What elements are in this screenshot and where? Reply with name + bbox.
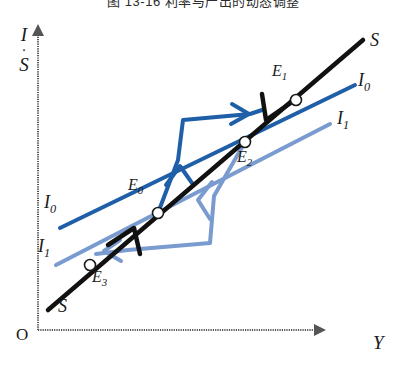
- curve-label-i0-right-sub: 0: [364, 80, 370, 94]
- point-E2[interactable]: [240, 137, 251, 148]
- point-label-E3: E3: [92, 268, 107, 288]
- point-label-E0-sub: 0: [138, 184, 143, 196]
- curve-label-i0-left: I0: [44, 192, 56, 217]
- x-axis-label: Y: [373, 332, 384, 354]
- curve-label-i0-right: I0: [358, 70, 370, 95]
- origin-label: O: [16, 325, 28, 345]
- point-label-E2-sub: 2: [247, 156, 252, 168]
- y-axis-label-s: S: [14, 56, 34, 74]
- point-label-E2-base: E: [237, 148, 247, 165]
- point-label-E3-base: E: [92, 268, 102, 285]
- point-label-E2: E2: [237, 148, 252, 168]
- point-label-E1: E1: [272, 62, 287, 82]
- y-axis-label: I · S: [14, 26, 34, 74]
- curve-investment-i0: [60, 85, 355, 228]
- point-label-E1-base: E: [272, 62, 282, 79]
- point-E1[interactable]: [291, 95, 302, 106]
- point-label-E3-sub: 3: [102, 276, 107, 288]
- point-label-E1-sub: 1: [282, 70, 287, 82]
- curve-label-s-top: S: [370, 30, 379, 51]
- curve-label-i1-right-sub: 1: [343, 118, 349, 132]
- curve-label-i0-left-sub: 0: [50, 202, 56, 216]
- curve-label-s-bottom: S: [58, 296, 67, 317]
- curve-label-i1-right: I1: [337, 108, 349, 133]
- curve-label-i1-left: I1: [38, 236, 50, 261]
- curve-label-i1-left-sub: 1: [44, 246, 50, 260]
- point-E0[interactable]: [153, 208, 164, 219]
- point-label-E0-base: E: [128, 176, 138, 193]
- point-label-E0: E0: [128, 176, 143, 196]
- figure-root: 图 13-16 利率与产出的动态调整: [0, 0, 407, 367]
